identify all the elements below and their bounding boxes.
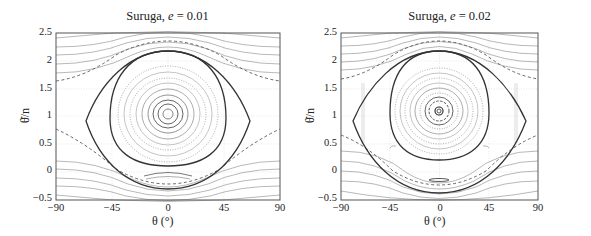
chart-title-right: Suruga, e = 0.02 [392, 9, 507, 24]
xtick: −90 [41, 202, 71, 213]
ytick: 2 [22, 54, 52, 65]
xtick: 90 [523, 202, 553, 213]
plot-area-right [341, 33, 538, 200]
ytick: 2.5 [307, 26, 337, 37]
ytick: 1.5 [22, 82, 52, 93]
y-axis-label-right: θ̇/n [303, 108, 318, 123]
title-suffix: = 0.02 [456, 9, 491, 23]
ytick: 1.5 [307, 82, 337, 93]
x-axis-label-left: θ (°) [152, 214, 174, 229]
ytick: 0 [22, 164, 52, 175]
xtick: 0 [153, 202, 183, 213]
xtick: 90 [265, 202, 295, 213]
x-axis-label-right: θ (°) [424, 214, 446, 229]
ytick: 0.5 [307, 137, 337, 148]
title-prefix: Suruga, [126, 9, 168, 23]
plot-area-left [56, 33, 280, 200]
xtick: 0 [425, 202, 455, 213]
title-prefix: Suruga, [408, 9, 450, 23]
y-axis-label-left: θ̇/n [18, 108, 33, 123]
ytick: 0.5 [22, 137, 52, 148]
xtick: −45 [97, 202, 127, 213]
xtick: 45 [209, 202, 239, 213]
ytick: 2 [307, 54, 337, 65]
xtick: −90 [326, 202, 356, 213]
title-suffix: = 0.01 [174, 9, 209, 23]
ytick: 0 [307, 164, 337, 175]
chart-title-left: Suruga, e = 0.01 [110, 9, 225, 24]
xtick: −45 [375, 202, 405, 213]
xtick: 45 [474, 202, 504, 213]
ytick: 2.5 [22, 26, 52, 37]
